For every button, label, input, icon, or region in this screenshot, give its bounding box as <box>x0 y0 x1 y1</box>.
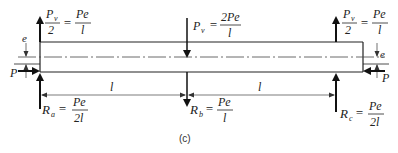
beam-diagram: e P e P P v 2 = Pe l P v = 2Pe l <box>0 0 398 153</box>
subscript: v <box>201 26 205 35</box>
axial-load-right: P <box>365 71 390 85</box>
axial-label-left: P <box>9 66 18 80</box>
frac-den: 2l <box>370 115 380 129</box>
subscript: a <box>51 110 55 119</box>
load-top-left: P v 2 = Pe l <box>40 7 91 42</box>
reaction-symbol: R <box>189 102 198 117</box>
eccentricity-label-left: e <box>22 32 27 44</box>
axial-load-left: P <box>9 66 38 80</box>
frac-den: l <box>378 23 382 37</box>
reaction-symbol: R <box>41 102 50 117</box>
frac-num: 2Pe <box>221 10 240 24</box>
frac-den: 2 <box>345 23 351 37</box>
frac-num: P <box>45 7 54 21</box>
frac-den: l <box>223 111 227 125</box>
reaction-b: R b = Pe l <box>187 72 233 125</box>
frac-num: Pe <box>72 95 86 109</box>
frac-num: P <box>342 7 351 21</box>
frac-den: 2 <box>48 23 54 37</box>
equals: = <box>58 101 67 116</box>
eccentricity-label-right: e <box>380 48 385 60</box>
dimension-label-bc: l <box>258 80 262 94</box>
axial-label-right: P <box>381 71 390 85</box>
subscript: v <box>351 14 355 23</box>
subscript: c <box>349 114 353 123</box>
figure-caption: (c) <box>179 133 191 144</box>
load-top-center: P v = 2Pe l <box>187 10 241 56</box>
frac-num: Pe <box>372 7 386 21</box>
frac-num: Pe <box>75 7 89 21</box>
equals: = <box>360 15 369 30</box>
dimension-label-ab: l <box>110 80 114 94</box>
frac-den: l <box>228 26 232 40</box>
subscript: b <box>199 110 203 119</box>
frac-den: l <box>81 23 85 37</box>
reaction-a: R a = Pe 2l <box>40 75 88 125</box>
reaction-symbol: R <box>339 106 348 121</box>
equals: = <box>209 17 218 32</box>
equals: = <box>63 15 72 30</box>
dimension-ab: l <box>42 80 185 95</box>
reaction-c: R c = Pe 2l <box>336 75 384 129</box>
frac-num: Pe <box>217 95 231 109</box>
load-top-right: P v 2 = Pe l <box>336 7 388 42</box>
equals: = <box>205 101 214 116</box>
frac-den: 2l <box>74 111 84 125</box>
load-symbol: P <box>192 19 201 33</box>
frac-num: Pe <box>368 99 382 113</box>
equals: = <box>355 105 364 120</box>
subscript: v <box>54 14 58 23</box>
dimension-bc: l <box>189 80 334 95</box>
